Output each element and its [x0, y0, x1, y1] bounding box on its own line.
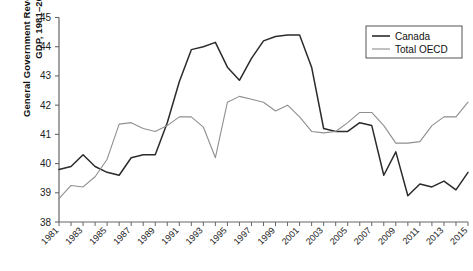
x-tick-label: 2009 — [376, 225, 397, 246]
y-tick-label: 43 — [40, 70, 52, 81]
x-tick-label: 1985 — [87, 225, 108, 246]
x-tick-label: 1997 — [232, 225, 253, 246]
y-tick-label: 40 — [40, 158, 52, 169]
legend-label-canada: Canada — [395, 31, 430, 42]
y-tick-label: 44 — [40, 41, 52, 52]
x-tick-label: 1995 — [208, 225, 229, 246]
series-line-canada — [59, 35, 468, 196]
x-tick-label: 2011 — [401, 225, 422, 246]
x-tick-label: 1999 — [256, 225, 277, 246]
x-tick-label: 2005 — [328, 225, 349, 246]
line-chart-svg: 3839404142434445 19811983198519871989199… — [0, 0, 473, 271]
x-tick-label: 2001 — [280, 225, 301, 246]
x-tick-label: 1993 — [184, 225, 205, 246]
y-tick-label: 41 — [40, 129, 52, 140]
y-axis-ticks: 3839404142434445 — [40, 12, 59, 228]
x-tick-label: 2015 — [448, 225, 469, 246]
x-tick-label: 2003 — [304, 225, 325, 246]
legend-label-total-oecd: Total OECD — [395, 44, 448, 55]
x-tick-label: 1989 — [135, 225, 156, 246]
x-tick-label: 1981 — [39, 225, 60, 246]
x-tick-label: 1987 — [111, 225, 132, 246]
data-series-group — [59, 35, 468, 199]
x-tick-label: 1983 — [63, 225, 84, 246]
series-line-total-oecd — [59, 96, 468, 198]
x-tick-label: 2013 — [424, 225, 445, 246]
x-tick-label: 2007 — [352, 225, 373, 246]
y-tick-label: 45 — [40, 12, 52, 23]
chart-container: General Government Revenue Total, % of G… — [0, 0, 473, 271]
x-tick-label: 1991 — [159, 225, 180, 246]
y-tick-label: 38 — [40, 217, 52, 228]
y-tick-label: 42 — [40, 100, 52, 111]
x-axis-ticks: 1981198319851987198919911993199519971999… — [39, 222, 469, 247]
y-tick-label: 39 — [40, 187, 52, 198]
chart-legend: CanadaTotal OECD — [366, 26, 462, 58]
